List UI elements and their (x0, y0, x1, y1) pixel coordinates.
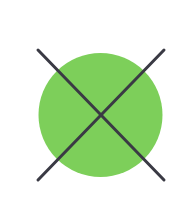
figure-canvas (0, 0, 182, 207)
crossed-out-circle-icon (0, 0, 182, 207)
